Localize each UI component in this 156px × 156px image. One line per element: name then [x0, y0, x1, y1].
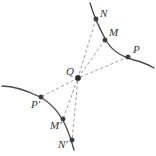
point-label-N-prime: N' — [58, 139, 68, 150]
point-label-M: M — [109, 27, 118, 38]
point-marker-P — [126, 55, 131, 60]
point-label-P: P — [133, 44, 140, 55]
point-label-M-prime: M' — [50, 120, 62, 131]
point-marker-N-prime — [70, 138, 75, 143]
figure-canvas — [0, 0, 156, 156]
ray-through-P-and-P-prime — [41, 57, 128, 97]
ray-through-M-and-M-prime — [63, 40, 105, 119]
point-marker-N — [94, 17, 99, 22]
geometry-figure: N M P Q P' M' N' — [0, 0, 156, 156]
point-label-P-prime: P' — [31, 99, 40, 110]
point-label-N: N — [100, 8, 107, 19]
point-marker-M — [103, 38, 108, 43]
point-label-Q: Q — [66, 66, 74, 77]
point-marker-Q — [75, 75, 80, 80]
